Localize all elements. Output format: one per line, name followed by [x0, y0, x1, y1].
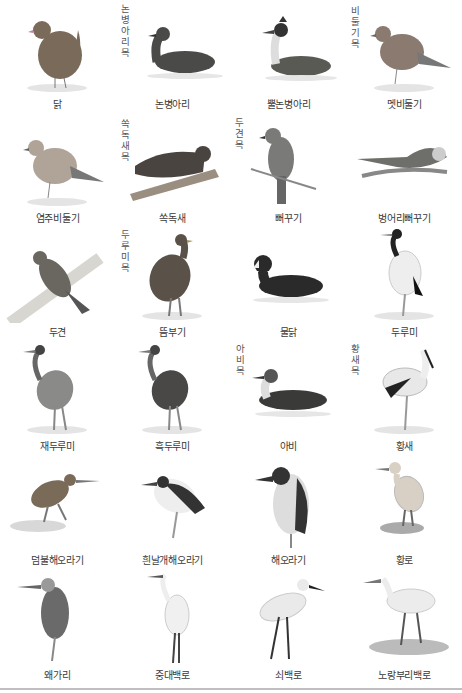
order-label: 논병아리목: [119, 3, 131, 58]
bird-card: 물닭: [231, 228, 346, 342]
bird-name: 황로: [347, 552, 462, 567]
bird-illustration: [347, 571, 462, 666]
bird-illustration: [0, 228, 115, 323]
bird-name: 황새: [347, 438, 462, 453]
bird-card: 닭: [0, 0, 115, 114]
bird-name: 쇠백로: [231, 667, 346, 682]
bird-card: 두루미: [347, 228, 462, 342]
bird-card: 두견: [0, 228, 115, 342]
bird-name: 왜가리: [0, 667, 115, 682]
bird-illustration: [0, 114, 115, 209]
bird-illustration: [347, 114, 462, 209]
bird-card: 멧비둘기: [347, 0, 462, 114]
order-label: 두루미목: [119, 229, 131, 273]
bird-name: 벙어리뻐꾸기: [347, 210, 462, 225]
bird-name: 노랑부리백로: [347, 667, 462, 682]
bird-illustration: [347, 456, 462, 551]
bird-name: 염주비둘기: [0, 210, 115, 225]
bird-card: 벙어리뻐꾸기: [347, 114, 462, 228]
bird-name: 논병아리: [115, 96, 230, 111]
bird-illustration: [347, 342, 462, 437]
bird-card: 황새: [347, 342, 462, 456]
bird-name: 아비: [231, 438, 346, 453]
bird-card: 노랑부리백로: [347, 571, 462, 685]
bird-card: 뻐꾸기: [231, 114, 346, 228]
bird-illustration: [115, 456, 230, 551]
bird-name: 덤불해오라기: [0, 552, 115, 567]
bird-card: 염주비둘기: [0, 114, 115, 228]
bird-illustration: [231, 114, 346, 209]
bird-name: 흰날개해오라기: [115, 552, 230, 567]
bottom-divider: [0, 688, 462, 690]
bird-illustration: [231, 342, 346, 437]
bird-name: 중대백로: [115, 667, 230, 682]
bird-card: 왜가리: [0, 571, 115, 685]
bird-card: 뜸부기: [115, 228, 230, 342]
order-label: 아비목: [234, 343, 246, 376]
bird-name: 두루미: [347, 324, 462, 339]
bird-illustration: [231, 228, 346, 323]
bird-illustration: [115, 228, 230, 323]
bird-card: 흑두루미: [115, 342, 230, 456]
bird-illustration: [115, 342, 230, 437]
bird-name: 멧비둘기: [347, 96, 462, 111]
bird-illustration: [115, 114, 230, 209]
bird-illustration: [115, 571, 230, 666]
bird-species-grid: 닭논병아리뿔논병아리멧비둘기염주비둘기쏙독새뻐꾸기벙어리뻐꾸기두견뜸부기물닭두루…: [0, 0, 462, 690]
bird-card: 논병아리: [115, 0, 230, 114]
order-label: 쏙독새목: [119, 118, 131, 162]
bird-illustration: [0, 456, 115, 551]
bird-name: 뿔논병아리: [231, 96, 346, 111]
bird-illustration: [0, 0, 115, 95]
bird-card: 아비: [231, 342, 346, 456]
bird-card: 뿔논병아리: [231, 0, 346, 114]
bird-illustration: [115, 0, 230, 95]
bird-name: 물닭: [231, 324, 346, 339]
bird-card: 쏙독새: [115, 114, 230, 228]
bird-card: 쇠백로: [231, 571, 346, 685]
bird-illustration: [231, 0, 346, 95]
order-label: 황새목: [349, 343, 361, 376]
bird-name: 뜸부기: [115, 324, 230, 339]
bird-illustration: [231, 456, 346, 551]
bird-illustration: [231, 571, 346, 666]
bird-illustration: [0, 571, 115, 666]
bird-card: 중대백로: [115, 571, 230, 685]
bird-card: 흰날개해오라기: [115, 456, 230, 570]
bird-illustration: [347, 228, 462, 323]
bird-card: 황로: [347, 456, 462, 570]
bird-card: 덤불해오라기: [0, 456, 115, 570]
order-label: 두견목: [233, 117, 245, 150]
bird-name: 해오라기: [231, 552, 346, 567]
order-label: 비둘기목: [349, 5, 361, 49]
bird-name: 뻐꾸기: [231, 210, 346, 225]
bird-illustration: [347, 0, 462, 95]
bird-illustration: [0, 342, 115, 437]
bird-name: 흑두루미: [115, 438, 230, 453]
bird-name: 두견: [0, 324, 115, 339]
bird-card: 재두루미: [0, 342, 115, 456]
bird-name: 재두루미: [0, 438, 115, 453]
bird-name: 쏙독새: [115, 210, 230, 225]
bird-card: 해오라기: [231, 456, 346, 570]
bird-name: 닭: [0, 96, 115, 111]
